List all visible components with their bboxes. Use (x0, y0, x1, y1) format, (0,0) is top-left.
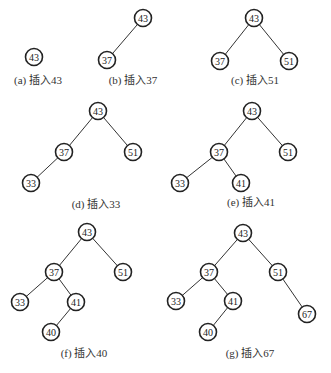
tree-node-51: 51 (270, 264, 287, 281)
panel-caption: (a) 插入43 (14, 73, 62, 87)
tree-node-43: 43 (135, 10, 152, 27)
tree-node-33: 33 (12, 294, 29, 311)
bst-insertion-diagram: 43(a) 插入434337(b) 插入37433751(c) 插入514337… (0, 0, 331, 373)
tree-edge-37-33 (26, 278, 47, 297)
tree-panel-a: 43(a) 插入43 (14, 49, 62, 88)
node-key: 51 (283, 147, 293, 158)
tree-node-51: 51 (280, 144, 297, 161)
tree-edge-37-33 (37, 158, 58, 177)
tree-edge-41-40 (213, 308, 227, 326)
tree-node-43: 43 (244, 103, 261, 120)
panel-caption: (d) 插入33 (72, 197, 121, 211)
node-key: 51 (273, 267, 283, 278)
tree-node-37: 37 (46, 264, 63, 281)
tree-panel-b: 4337(b) 插入37 (99, 10, 158, 88)
tree-node-40: 40 (200, 324, 217, 341)
tree-node-43: 43 (79, 224, 96, 241)
tree-node-41: 41 (68, 294, 85, 311)
tree-edge-43-37 (59, 239, 81, 266)
node-key: 67 (302, 309, 312, 320)
tree-node-33: 33 (172, 175, 189, 192)
tree-node-43: 43 (26, 49, 43, 66)
node-key: 43 (247, 106, 257, 117)
tree-edge-37-41 (214, 279, 227, 295)
tree-node-37: 37 (212, 53, 229, 70)
tree-node-41: 41 (233, 175, 250, 192)
node-key: 43 (249, 13, 259, 24)
tree-edge-37-33 (187, 157, 213, 177)
node-key: 37 (215, 56, 225, 67)
node-key: 43 (29, 52, 39, 63)
node-key: 33 (171, 296, 181, 307)
tree-edge-43-37 (215, 239, 238, 265)
tree-node-51: 51 (115, 264, 132, 281)
tree-node-33: 33 (168, 293, 185, 310)
node-key: 37 (59, 147, 69, 158)
tree-edge-43-37 (113, 24, 138, 53)
node-key: 43 (93, 106, 103, 117)
node-key: 41 (228, 296, 238, 307)
tree-panel-d: 43375133(d) 插入33 (23, 103, 142, 212)
tree-node-37: 37 (201, 264, 218, 281)
tree-edge-43-37 (225, 25, 248, 55)
node-key: 40 (46, 327, 56, 338)
node-key: 51 (284, 56, 294, 67)
tree-node-51: 51 (281, 53, 298, 70)
tree-edge-43-51 (93, 238, 118, 265)
node-key: 40 (203, 327, 213, 338)
tree-edge-43-51 (258, 117, 283, 145)
tree-edge-37-41 (224, 159, 236, 176)
tree-panel-g: 43375133414067(g) 插入67 (168, 225, 316, 361)
tree-node-33: 33 (23, 175, 40, 192)
tree-edge-37-41 (59, 279, 71, 295)
panel-caption: (f) 插入40 (61, 346, 108, 360)
panel-caption: (c) 插入51 (231, 73, 279, 87)
node-key: 51 (118, 267, 128, 278)
node-key: 33 (26, 178, 36, 189)
tree-node-43: 43 (246, 10, 263, 27)
node-key: 37 (204, 267, 214, 278)
node-key: 51 (128, 147, 138, 158)
node-key: 33 (15, 297, 25, 308)
tree-node-67: 67 (299, 306, 316, 323)
node-key: 43 (138, 13, 148, 24)
panel-caption: (e) 插入41 (227, 195, 275, 209)
tree-node-43: 43 (235, 225, 252, 242)
tree-node-51: 51 (125, 144, 142, 161)
tree-panel-e: 4337513341(e) 插入41 (172, 103, 297, 210)
node-key: 37 (49, 267, 59, 278)
panel-caption: (b) 插入37 (109, 73, 158, 87)
node-key: 37 (214, 147, 224, 158)
tree-panel-c: 433751(c) 插入51 (212, 10, 298, 88)
tree-edge-43-51 (104, 117, 128, 145)
tree-panel-f: 433751334140(f) 插入40 (12, 224, 132, 361)
tree-node-40: 40 (43, 324, 60, 341)
tree-node-37: 37 (99, 52, 116, 69)
node-key: 37 (102, 55, 112, 66)
tree-edge-37-33 (182, 278, 202, 296)
tree-node-41: 41 (225, 293, 242, 310)
tree-edge-43-51 (259, 25, 283, 55)
tree-edge-43-51 (249, 239, 273, 265)
tree-edge-41-40 (56, 309, 70, 326)
panel-caption: (g) 插入67 (226, 346, 275, 360)
tree-node-43: 43 (90, 103, 107, 120)
node-key: 43 (238, 228, 248, 239)
tree-edge-51-67 (283, 279, 302, 307)
node-key: 41 (71, 297, 81, 308)
node-key: 43 (82, 227, 92, 238)
tree-edge-43-37 (69, 118, 92, 146)
node-key: 41 (236, 178, 246, 189)
node-key: 33 (175, 178, 185, 189)
tree-edge-43-37 (224, 118, 246, 146)
tree-node-37: 37 (211, 144, 228, 161)
tree-node-37: 37 (56, 144, 73, 161)
